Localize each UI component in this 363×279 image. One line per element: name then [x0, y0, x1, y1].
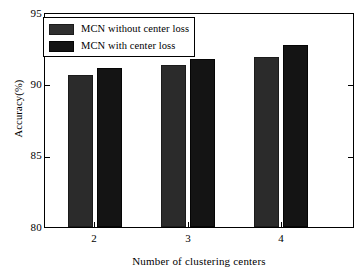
y-axis-tick-label-80: 80	[0, 222, 42, 233]
x-axis-title: Number of clustering centers	[44, 255, 354, 267]
legend-label-series-b: MCN with center loss	[81, 40, 175, 52]
x-axis-tick-label-3: 3	[168, 232, 208, 244]
x-tick-mark-4	[281, 222, 282, 228]
legend-item-with-center-loss[interactable]: MCN with center loss	[49, 38, 190, 54]
legend-item-without-center-loss[interactable]: MCN without center loss	[49, 21, 190, 37]
bar-series-b-cat-2[interactable]	[97, 68, 122, 227]
bar-series-b-cat-4[interactable]	[283, 45, 308, 227]
bar-series-a-cat-4[interactable]	[254, 57, 279, 227]
legend-swatch-icon-series-b	[49, 41, 74, 52]
x-tick-mark-2	[94, 222, 95, 228]
legend: MCN without center loss MCN with center …	[43, 17, 195, 57]
bar-series-a-cat-2[interactable]	[68, 75, 93, 227]
legend-label-series-a: MCN without center loss	[81, 23, 189, 35]
bar-series-a-cat-3[interactable]	[161, 65, 186, 227]
bar-series-b-cat-3[interactable]	[190, 59, 215, 227]
x-axis-tick-label-4: 4	[261, 232, 301, 244]
y-axis-tick-label-95: 95	[0, 8, 42, 19]
x-tick-mark-3	[188, 222, 189, 228]
x-axis-tick-label-2: 2	[74, 232, 114, 244]
bar-chart-figure: 95 90 85 80 Accuracy(%) MCN without cent…	[0, 0, 363, 279]
legend-swatch-icon-series-a	[49, 24, 74, 35]
y-axis-title: Accuracy(%)	[13, 44, 24, 174]
